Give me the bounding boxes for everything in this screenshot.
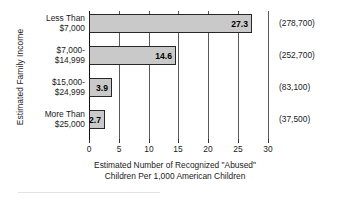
x-tick-label-2: 10: [134, 144, 164, 154]
x-tick-label-4: 20: [193, 144, 223, 154]
category-label-2-line-0: $15,000-: [5, 77, 85, 87]
tick-10: [149, 139, 150, 143]
x-tick-label-6: 30: [253, 144, 283, 154]
category-label-1: $7,000- $14,999: [5, 45, 85, 65]
category-label-3: More Than $25,000: [5, 109, 85, 129]
bar-2[interactable]: 3.9: [89, 78, 112, 97]
bar-value-0: 27.3: [231, 19, 248, 29]
bar-value-3: 2.7: [89, 115, 101, 125]
annotation-right-2: (83,100): [279, 82, 337, 92]
x-axis-title: Estimated Number of Recognized "Abused" …: [60, 160, 290, 182]
category-label-1-line-1: $14,999: [5, 55, 85, 65]
annotation-right-0: (278,700): [279, 18, 337, 28]
x-axis-title-line-0: Estimated Number of Recognized "Abused": [60, 160, 290, 171]
category-label-1-line-0: $7,000-: [5, 45, 85, 55]
annotation-right-3: (37,500): [279, 114, 337, 124]
bar-3[interactable]: 2.7: [89, 110, 105, 129]
x-tick-label-0: 0: [74, 144, 104, 154]
x-tick-label-1: 5: [104, 144, 134, 154]
category-label-0: Less Than $7,000: [5, 13, 85, 33]
tick-20: [208, 139, 209, 143]
category-label-0-line-1: $7,000: [5, 23, 85, 33]
category-label-2-line-1: $24,999: [5, 87, 85, 97]
category-label-0-line-0: Less Than: [5, 13, 85, 23]
tick-30: [268, 139, 269, 143]
bar-0[interactable]: 27.3: [89, 14, 252, 33]
bar-value-1: 14.6: [155, 51, 172, 61]
x-axis-title-line-1: Children Per 1,000 American Children: [60, 171, 290, 182]
category-label-2: $15,000- $24,999: [5, 77, 85, 97]
x-tick-label-5: 25: [223, 144, 253, 154]
annotation-right-1: (252,700): [279, 50, 337, 60]
x-tick-label-3: 15: [163, 144, 193, 154]
category-label-3-line-1: $25,000: [5, 119, 85, 129]
tick-0: [89, 139, 90, 143]
tick-15: [178, 139, 179, 143]
bar-1[interactable]: 14.6: [89, 46, 176, 65]
gridline-30: [268, 11, 269, 139]
tick-25: [238, 139, 239, 143]
bar-chart-figure: Estimated Family Income Less Than $7,000…: [0, 0, 337, 199]
bar-value-2: 3.9: [96, 83, 108, 93]
tick-5: [119, 139, 120, 143]
bottom-divider: [18, 192, 160, 193]
category-label-3-line-0: More Than: [5, 109, 85, 119]
plot-area: 0 5 10 15 20 25 30 27.3 14.6 3.9 2.7: [89, 11, 268, 139]
